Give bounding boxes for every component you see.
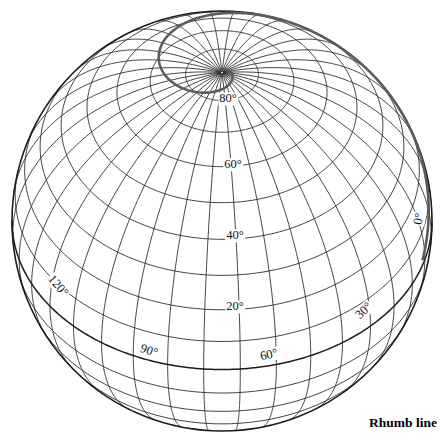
rhumb-line-caption: Rhumb line	[369, 415, 437, 431]
latitude-label-60: 60°	[223, 158, 243, 171]
longitude-label-0: 0°	[411, 211, 427, 227]
graticule-segment	[222, 74, 276, 427]
graticule-segment	[39, 324, 405, 411]
globe-graticule-svg	[0, 0, 447, 447]
graticule-segment	[224, 73, 431, 245]
graticule-segment	[223, 73, 370, 392]
latitude-label-80: 80°	[218, 92, 238, 105]
graticule-segment	[102, 74, 221, 410]
rhumb-segment	[159, 13, 429, 259]
meridians-group	[13, 11, 431, 429]
latitude-label-40: 40°	[225, 229, 245, 242]
graticule-segment	[204, 74, 222, 430]
globe-figure: 80° 60° 40° 20° 0° 30° 60° 90° 120° Rhum…	[0, 0, 447, 447]
graticule-segment	[25, 120, 420, 310]
graticule-segment	[224, 68, 419, 147]
graticule-segment	[75, 371, 369, 424]
latitude-label-20: 20°	[225, 300, 245, 313]
graticule-segment	[222, 74, 240, 430]
graticule-segment	[26, 68, 221, 147]
rhumb-line-path	[159, 13, 429, 259]
graticule-segment	[61, 30, 383, 239]
graticule-segment	[13, 73, 220, 245]
graticule-segment	[168, 74, 222, 427]
